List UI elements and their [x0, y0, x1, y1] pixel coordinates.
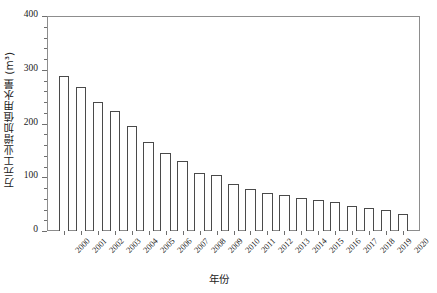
x-tick-label: 2017: [361, 236, 380, 255]
x-tick-label: 2003: [124, 236, 143, 255]
x-tick-mark: [335, 231, 336, 235]
x-tick-label: 2002: [107, 236, 126, 255]
x-tick-mark: [403, 231, 404, 235]
bar: [313, 200, 324, 231]
bar: [127, 126, 138, 231]
x-tick-label: 2012: [276, 236, 295, 255]
x-tick-mark: [149, 231, 150, 235]
x-axis-tick-labels: 2000200120022003200420052006200720082009…: [47, 236, 420, 270]
y-tick-label: 300: [24, 63, 38, 73]
bar: [76, 87, 87, 231]
bar: [143, 142, 154, 231]
x-tick-mark: [284, 231, 285, 235]
x-tick-mark: [81, 231, 82, 235]
bar: [59, 76, 70, 231]
bar: [228, 184, 239, 231]
x-tick-mark: [267, 231, 268, 235]
bar: [364, 208, 375, 231]
bar: [194, 173, 205, 231]
bar: [347, 206, 358, 231]
x-tick-label: 2020: [412, 236, 431, 255]
x-tick-mark: [318, 231, 319, 235]
x-tick-label: 2010: [242, 236, 261, 255]
bar: [381, 210, 392, 231]
x-tick-mark: [352, 231, 353, 235]
x-tick-mark: [64, 231, 65, 235]
x-tick-mark: [183, 231, 184, 235]
x-tick-mark: [386, 231, 387, 235]
x-tick-label: 2008: [208, 236, 227, 255]
bar: [110, 111, 121, 231]
x-tick-mark: [250, 231, 251, 235]
chart-container: 万元工业增加值用水量 (m³) 0100200300400 2000200120…: [0, 0, 437, 293]
x-tick-label: 2005: [158, 236, 177, 255]
x-tick-label: 2016: [344, 236, 363, 255]
bar: [160, 153, 171, 231]
bar: [279, 195, 290, 231]
x-tick-label: 2000: [73, 236, 92, 255]
x-tick-label: 2004: [141, 236, 160, 255]
x-tick-mark: [98, 231, 99, 235]
x-tick-mark: [200, 231, 201, 235]
x-tick-mark: [132, 231, 133, 235]
x-tick-label: 2006: [175, 236, 194, 255]
bar: [245, 189, 256, 231]
x-tick-label: 2013: [293, 236, 312, 255]
x-axis-title-text: 年份: [209, 273, 229, 285]
y-axis-title-text: 万元工业增加值用水量 (m³): [4, 52, 15, 188]
x-tick-mark: [217, 231, 218, 235]
bar-series: [47, 16, 420, 231]
bar: [398, 214, 409, 231]
y-tick-label: 200: [24, 117, 38, 127]
x-tick-label: 2009: [225, 236, 244, 255]
bar: [177, 161, 188, 231]
x-axis-title: 年份: [0, 271, 437, 286]
x-tick-mark: [301, 231, 302, 235]
bar: [296, 198, 307, 231]
bar: [93, 102, 104, 231]
bar: [211, 175, 222, 231]
y-axis-title: 万元工业增加值用水量 (m³): [0, 0, 18, 240]
x-tick-label: 2007: [191, 236, 210, 255]
x-tick-label: 2011: [259, 236, 278, 255]
x-tick-mark: [166, 231, 167, 235]
x-tick-label: 2015: [327, 236, 346, 255]
x-tick-mark: [115, 231, 116, 235]
bar: [330, 202, 341, 231]
y-tick-label: 100: [24, 170, 38, 180]
x-tick-mark: [369, 231, 370, 235]
bar: [262, 193, 273, 231]
x-tick-label: 2001: [90, 236, 109, 255]
x-tick-label: 2014: [310, 236, 329, 255]
x-tick-label: 2018: [378, 236, 397, 255]
x-tick-mark: [234, 231, 235, 235]
y-tick-label: 0: [33, 224, 38, 234]
x-tick-label: 2019: [395, 236, 414, 255]
y-tick-label: 400: [24, 9, 38, 19]
